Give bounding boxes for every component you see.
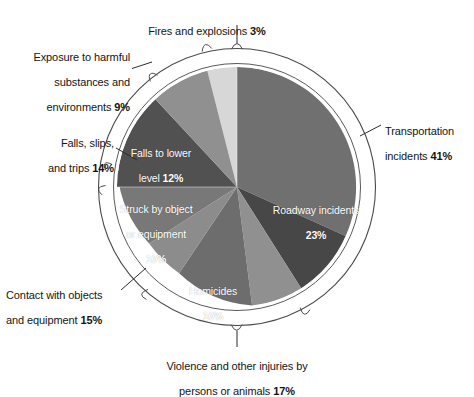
- inner-falls-lower-pct: 12%: [163, 172, 184, 184]
- callout-fires-text: Fires and explosions: [148, 25, 250, 37]
- callout-falls-slips-and-trips: Falls, slips, and trips 14%: [4, 124, 114, 174]
- callout-exposure-line3: environments: [47, 101, 115, 113]
- callout-violence-line2: persons or animals: [179, 385, 273, 397]
- inner-falls-lower-line1: Falls to lower: [131, 147, 191, 159]
- callout-fires-pct: 3%: [250, 25, 266, 37]
- callout-exposure-harmful-substances: Exposure to harmful substances and envir…: [4, 38, 130, 114]
- inner-struck-pct: 10%: [146, 253, 167, 265]
- inner-label-roadway-incidents: Roadway incidents 23%: [258, 191, 374, 241]
- inner-roadway-pct: 23%: [306, 229, 327, 241]
- callout-falls-slips-line2: and trips: [48, 162, 92, 174]
- callout-contact-line1: Contact with objects: [6, 289, 102, 301]
- callout-fires-and-explosions: Fires and explosions 3%: [107, 12, 307, 37]
- pie-slices: [117, 67, 356, 306]
- callout-transportation-incidents: Transportation incidents 41%: [385, 112, 473, 162]
- callout-contact-with-objects: Contact with objects and equipment 15%: [6, 276, 136, 326]
- inner-struck-line2: or equipment: [126, 228, 186, 240]
- callout-violence-pct: 17%: [273, 385, 295, 397]
- inner-falls-lower-line2: level: [139, 172, 163, 184]
- callout-exposure-line2: substances and: [54, 76, 130, 88]
- inner-struck-line1: Struck by object: [119, 203, 192, 215]
- inner-homicides-pct: 10%: [203, 310, 224, 322]
- callout-exposure-line1: Exposure to harmful: [33, 51, 130, 63]
- callout-transportation-line2: incidents: [385, 150, 430, 162]
- callout-transportation-line1: Transportation: [385, 125, 454, 137]
- callout-contact-pct: 15%: [80, 314, 102, 326]
- inner-homicides-line1: Homicides: [189, 285, 237, 297]
- callout-violence-line1: Violence and other injuries by: [166, 360, 307, 372]
- callout-transportation-pct: 41%: [430, 150, 452, 162]
- inner-label-struck-by-object: Struck by object or equipment 10%: [100, 190, 212, 266]
- inner-label-homicides: Homicides 10%: [166, 272, 260, 322]
- callout-exposure-pct: 9%: [114, 101, 130, 113]
- callout-violence-and-other-injuries: Violence and other injuries by persons o…: [142, 347, 332, 397]
- callout-contact-line2: and equipment: [6, 314, 80, 326]
- inner-label-falls-to-lower-level: Falls to lower level 12%: [107, 134, 215, 184]
- inner-roadway-line1: Roadway incidents: [273, 204, 359, 216]
